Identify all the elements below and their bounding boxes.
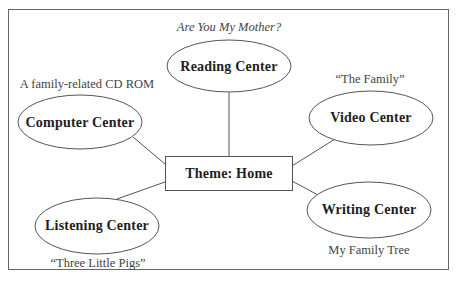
computer-note: A family-related CD ROM bbox=[20, 77, 154, 92]
connector-listening bbox=[117, 182, 165, 199]
writing-center-label: Writing Center bbox=[322, 202, 417, 218]
video-center-label: Video Center bbox=[330, 110, 412, 126]
reading-center-label: Reading Center bbox=[180, 59, 277, 75]
center-label: Theme: Home bbox=[185, 166, 272, 182]
connector-video bbox=[292, 139, 335, 166]
connector-computer bbox=[133, 137, 165, 164]
writing-note: My Family Tree bbox=[328, 243, 409, 258]
reading-note: Are You My Mother? bbox=[177, 20, 281, 35]
video-note: “The Family” bbox=[335, 72, 404, 87]
diagram-canvas bbox=[0, 0, 458, 282]
computer-center-label: Computer Center bbox=[26, 115, 135, 131]
connector-writing bbox=[292, 181, 318, 195]
listening-center-label: Listening Center bbox=[45, 218, 149, 234]
listening-note: “Three Little Pigs” bbox=[50, 256, 145, 271]
